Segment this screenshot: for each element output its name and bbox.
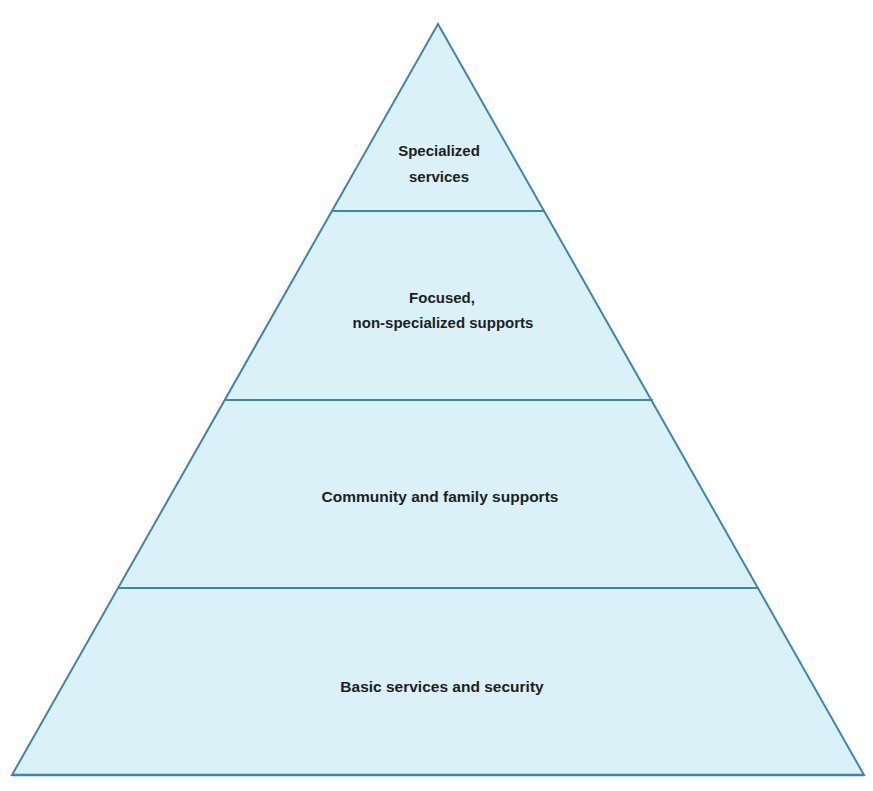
tier-label-line: services bbox=[409, 168, 469, 185]
tier-label-line: Basic services and security bbox=[340, 678, 544, 695]
tier-basic-services-security: Basic services and security bbox=[340, 678, 544, 695]
tier-label-line: Specialized bbox=[398, 142, 480, 159]
tier-label-line: Community and family supports bbox=[322, 488, 559, 505]
intervention-pyramid: Specialized services Focused, non-specia… bbox=[0, 0, 873, 791]
tier-label-line: non-specialized supports bbox=[353, 314, 534, 331]
tier-community-family-supports: Community and family supports bbox=[322, 488, 559, 505]
tier-label-line: Focused, bbox=[409, 289, 475, 306]
